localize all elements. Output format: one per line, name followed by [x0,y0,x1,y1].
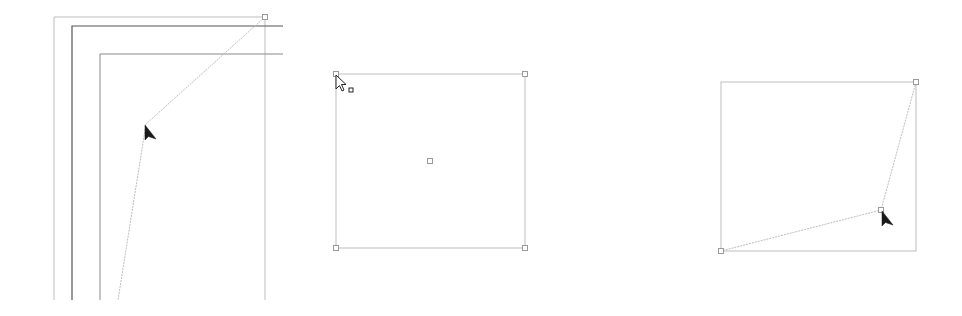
corner-handle[interactable] [334,246,339,251]
anchor-handle[interactable] [914,80,919,85]
canvas [0,0,962,316]
select-cursor-icon [336,75,353,92]
anchor-handle[interactable] [719,249,724,254]
panel-distorted-shape [719,80,919,254]
panel-selected-rectangle [334,72,528,251]
distort-guide-line [721,82,916,251]
panel-drag-corner [54,15,283,301]
inner-frame [100,54,283,300]
mouse-pointer-icon [145,125,156,140]
corner-handle[interactable] [523,72,528,77]
center-handle[interactable] [428,159,433,164]
drag-guide-line [118,17,265,300]
corner-handle[interactable] [523,246,528,251]
mouse-pointer-icon [882,211,893,226]
corner-handle[interactable] [263,15,268,20]
bounding-rectangle [721,82,916,251]
page-frame [72,26,283,300]
outer-frame [54,17,265,300]
